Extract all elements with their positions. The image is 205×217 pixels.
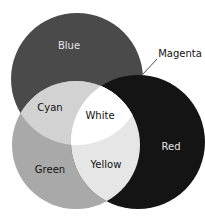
label-cyan: Cyan xyxy=(37,102,62,113)
magenta-leader-line xyxy=(143,59,157,74)
label-red: Red xyxy=(162,141,181,152)
venn-diagram: Blue Magenta Cyan White Red Green Yellow xyxy=(0,0,205,217)
label-blue: Blue xyxy=(58,40,80,51)
label-yellow: Yellow xyxy=(90,159,122,170)
label-white: White xyxy=(85,110,114,121)
label-magenta: Magenta xyxy=(158,48,202,59)
label-green: Green xyxy=(35,164,65,175)
